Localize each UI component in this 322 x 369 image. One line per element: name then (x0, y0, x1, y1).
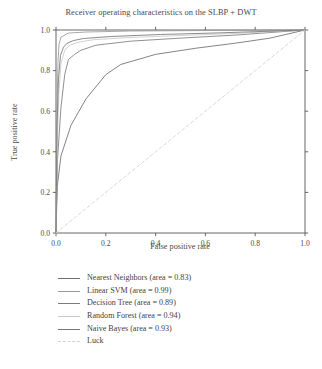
legend-line-swatch (58, 286, 80, 296)
legend-item[interactable]: Nearest Neighbors (area = 0.83) (0, 272, 322, 285)
legend-item[interactable]: Luck (0, 335, 322, 348)
legend-item[interactable]: Naive Bayes (area = 0.93) (0, 322, 322, 335)
chart-legend: Nearest Neighbors (area = 0.83)Linear SV… (0, 272, 322, 348)
legend-item[interactable]: Linear SVM (area = 0.99) (0, 285, 322, 298)
legend-item-label: Naive Bayes (area = 0.93) (87, 325, 172, 333)
legend-line-swatch (58, 324, 80, 334)
legend-item-label: Luck (87, 337, 104, 345)
roc-figure: Receiver operating characteristics on th… (0, 0, 322, 369)
plot-area: 0.00.20.40.60.81.00.00.20.40.60.81.0 Fal… (0, 20, 322, 252)
roc-plot-svg: 0.00.20.40.60.81.00.00.20.40.60.81.0 Fal… (0, 20, 322, 252)
x-tick-label: 1.0 (300, 239, 310, 248)
legend-item-label: Nearest Neighbors (area = 0.83) (87, 274, 191, 282)
x-axis-label: False positive rate (150, 242, 210, 251)
x-tick-label: 0.0 (51, 239, 61, 248)
legend-item[interactable]: Random Forest (area = 0.94) (0, 310, 322, 323)
legend-item-label: Random Forest (area = 0.94) (87, 312, 180, 320)
legend-item-label: Linear SVM (area = 0.99) (87, 287, 171, 295)
chart-title: Receiver operating characteristics on th… (0, 8, 322, 17)
x-tick-label: 0.2 (101, 239, 111, 248)
y-axis-label: True positive rate (10, 103, 19, 161)
y-tick-label: 0.6 (41, 107, 51, 116)
legend-line-swatch (58, 311, 80, 321)
y-tick-label: 1.0 (41, 26, 51, 35)
legend-item[interactable]: Decision Tree (area = 0.89) (0, 297, 322, 310)
legend-line-swatch (58, 273, 80, 283)
x-tick-label: 0.8 (250, 239, 260, 248)
y-tick-label: 0.2 (41, 188, 51, 197)
legend-line-swatch (58, 298, 80, 308)
y-tick-label: 0.8 (41, 66, 51, 75)
legend-item-label: Decision Tree (area = 0.89) (87, 299, 176, 307)
y-tick-label: 0.4 (41, 148, 51, 157)
y-tick-label: 0.0 (41, 229, 51, 238)
legend-line-swatch (58, 336, 80, 346)
